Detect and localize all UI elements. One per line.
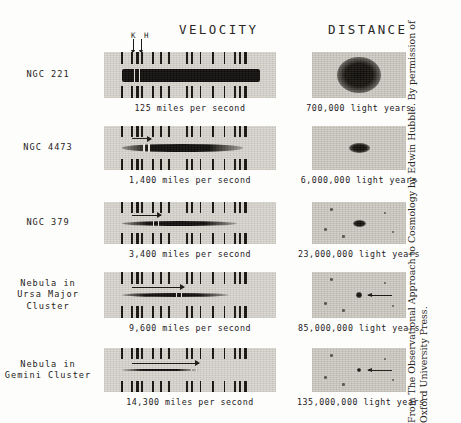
comparison-line — [152, 126, 154, 137]
comparison-spectrum-top — [104, 272, 276, 284]
comparison-line — [152, 202, 154, 213]
comparison-line — [234, 126, 236, 137]
comparison-line — [121, 306, 123, 318]
comparison-line — [136, 348, 139, 359]
comparison-line — [224, 272, 226, 284]
comparison-line — [244, 86, 247, 98]
comparison-line — [186, 126, 188, 137]
comparison-line — [168, 86, 171, 98]
row-label-4: Nebula in Gemini Cluster — [0, 359, 104, 382]
comparison-line — [186, 272, 188, 284]
k-absorption-line — [153, 221, 155, 226]
comparison-line — [239, 233, 241, 244]
comparison-line — [239, 348, 241, 359]
comparison-line — [224, 381, 226, 392]
comparison-line — [234, 52, 236, 64]
k-absorption-line — [176, 293, 178, 297]
comparison-line — [200, 233, 202, 244]
h-absorption-line — [148, 144, 150, 152]
redshift-arrow-icon — [132, 138, 151, 139]
comparison-line — [168, 202, 171, 213]
comparison-line — [121, 86, 123, 98]
comparison-line — [234, 159, 236, 170]
comparison-line — [136, 381, 139, 392]
comparison-line — [152, 159, 154, 170]
h-absorption-line — [196, 369, 198, 371]
field-star — [324, 302, 327, 305]
comparison-line — [160, 381, 162, 392]
spectrum-panel-3 — [104, 272, 276, 318]
comparison-line — [239, 86, 241, 98]
comparison-line — [160, 306, 162, 318]
comparison-line — [191, 272, 193, 284]
hubble-redshift-plate: VELOCITY DISTANCE K H NGC 221125 miles p… — [0, 0, 461, 423]
comparison-line — [141, 86, 143, 98]
comparison-line — [224, 159, 226, 170]
velocity-caption-3: 9,600 miles per second — [104, 323, 276, 333]
field-star — [342, 309, 345, 312]
k-absorption-line — [134, 69, 136, 82]
comparison-line — [212, 202, 215, 213]
distance-caption-2: 23,000,000 light years — [297, 249, 421, 259]
comparison-line — [200, 202, 202, 213]
comparison-line — [224, 202, 226, 213]
comparison-line — [244, 381, 247, 392]
galaxy-pointer-arrow-icon — [368, 295, 392, 296]
comparison-line — [212, 272, 215, 284]
comparison-line — [168, 348, 171, 359]
galaxy-image — [353, 220, 366, 227]
comparison-line — [136, 126, 139, 137]
comparison-line — [212, 159, 215, 170]
comparison-line — [141, 306, 143, 318]
comparison-line — [244, 202, 247, 213]
comparison-line — [244, 52, 247, 64]
h-absorption-line — [158, 221, 160, 226]
comparison-line — [212, 86, 215, 98]
comparison-line — [239, 306, 241, 318]
comparison-spectrum-bottom — [104, 159, 276, 170]
spectrum-panel-2 — [104, 202, 276, 244]
comparison-line — [191, 52, 193, 64]
galaxy-spectrum-streak — [122, 144, 243, 152]
comparison-line — [131, 159, 133, 170]
comparison-line — [239, 272, 241, 284]
comparison-line — [224, 306, 226, 318]
comparison-line — [239, 126, 241, 137]
galaxy-spectrum-streak — [122, 221, 237, 226]
comparison-line — [136, 159, 139, 170]
comparison-line — [212, 233, 215, 244]
comparison-line — [152, 86, 154, 98]
field-star — [392, 305, 394, 307]
comparison-line — [152, 306, 154, 318]
comparison-line — [224, 233, 226, 244]
comparison-line — [160, 159, 162, 170]
comparison-line — [160, 126, 162, 137]
comparison-line — [224, 86, 226, 98]
comparison-line — [234, 348, 236, 359]
comparison-line — [200, 52, 202, 64]
comparison-line — [168, 272, 171, 284]
comparison-line — [186, 86, 188, 98]
comparison-line — [141, 233, 143, 244]
comparison-line — [244, 306, 247, 318]
comparison-line — [136, 306, 139, 318]
h-absorption-line — [181, 293, 183, 297]
comparison-line — [131, 233, 133, 244]
comparison-line — [191, 381, 193, 392]
galaxy-spectrum-streak — [122, 69, 260, 82]
comparison-line — [224, 52, 226, 64]
comparison-line — [121, 159, 123, 170]
galaxy-image — [356, 292, 362, 298]
column-header-distance: DISTANCE — [328, 22, 407, 37]
comparison-line — [141, 272, 143, 284]
spectrum-panel-4 — [104, 348, 276, 392]
comparison-line — [186, 202, 188, 213]
comparison-line — [224, 348, 226, 359]
comparison-line — [200, 159, 202, 170]
comparison-line — [200, 306, 202, 318]
field-star — [342, 383, 345, 386]
field-star — [342, 235, 345, 238]
comparison-line — [160, 52, 162, 64]
comparison-line — [131, 52, 133, 64]
comparison-line — [239, 381, 241, 392]
